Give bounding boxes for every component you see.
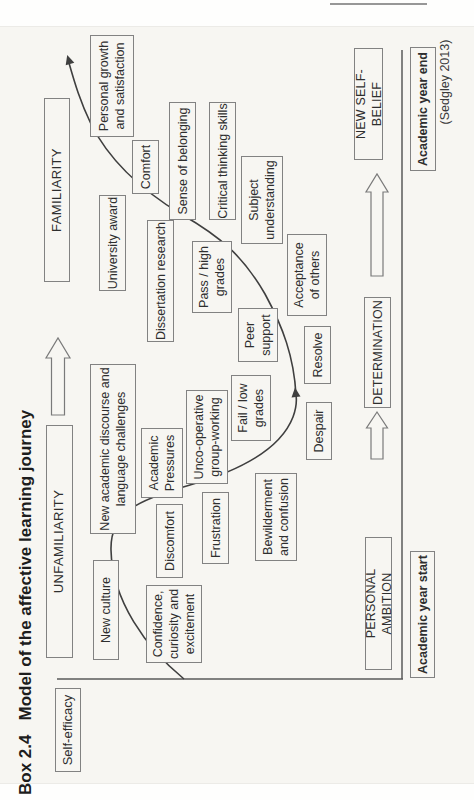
journey-node: Sense of belonging: [169, 102, 196, 220]
figure-landscape: Box 2.4Model of the affective learning j…: [0, 0, 474, 800]
journey-node: Fail / low grades: [231, 375, 271, 441]
scanned-page: Box 2.4Model of the affective learning j…: [0, 0, 474, 800]
journey-node: University award: [99, 195, 126, 291]
journey-node: Comfort: [132, 140, 159, 194]
curve-mid-arrowhead-icon: [291, 387, 301, 397]
milestone-box: DETERMINATION: [364, 297, 391, 408]
determination-progress-arrow-icon: [367, 412, 388, 459]
journey-node: Acceptance of others: [287, 234, 327, 316]
journey-node: Despair: [306, 402, 332, 460]
journey-node: Personal growth and satisfaction: [90, 35, 134, 137]
journey-node: Unco-operative group-working: [186, 390, 228, 484]
milestone-box: PERSONAL AMBITION: [365, 537, 392, 670]
journey-node: New culture: [93, 560, 119, 660]
journey-node: Critical thinking skills: [209, 102, 236, 220]
familiarity-progress-arrow-icon: [46, 338, 70, 415]
self-belief-progress-arrow-icon: [366, 174, 388, 276]
journey-node: Academic Pressures: [141, 428, 183, 498]
y-axis-label: Self-efficacy: [55, 688, 81, 772]
journey-node: Frustration: [202, 492, 229, 564]
x-axis-label-box: Academic year end: [410, 47, 436, 171]
top-scale-box: UNFAMILIARITY: [46, 425, 73, 658]
credit: (Sedgley 2013): [438, 27, 452, 137]
journey-node: Confidence, curiosity and excitement: [146, 585, 202, 663]
journey-node: Bewilderment and confusion: [255, 473, 297, 561]
journey-node: Subject understanding: [241, 156, 283, 244]
journey-node: Discomfort: [156, 504, 183, 578]
journey-node: Dissertation research: [147, 220, 174, 342]
journey-node: Peer support: [238, 308, 278, 362]
journey-node: Resolve: [304, 326, 331, 384]
journey-node: New academic discourse and language chal…: [90, 364, 136, 534]
journey-node: Pass / high grades: [192, 241, 232, 313]
top-scale-box: FAMILIARITY: [44, 98, 70, 282]
curve-end-arrowhead-icon: [63, 54, 74, 66]
x-axis-label-box: Academic year start: [410, 551, 435, 678]
milestone-box: NEW SELF-BELIEF: [354, 48, 383, 160]
